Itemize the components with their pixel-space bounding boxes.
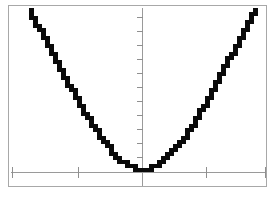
plot-area[interactable] bbox=[9, 6, 266, 186]
curve-pixel bbox=[253, 8, 258, 16]
screenshot-root bbox=[0, 0, 274, 208]
plot-canvas[interactable] bbox=[9, 6, 268, 188]
calculator-screen-frame bbox=[8, 5, 267, 187]
curve-series-0 bbox=[29, 8, 258, 172]
